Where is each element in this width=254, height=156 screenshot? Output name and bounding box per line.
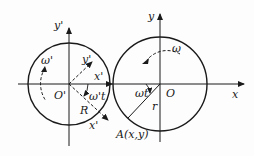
right-frame: y ω ωt O x r A(x,y) bbox=[112, 10, 244, 142]
rotation-arrowhead-icon bbox=[142, 58, 149, 64]
label-y-prime: y' bbox=[53, 19, 63, 32]
angle-arc-icon bbox=[84, 84, 88, 96]
two-circle-rotation-diagram: y' ω' y' x' O' ω't R x' y ω ωt O x r A(x… bbox=[0, 0, 254, 156]
label-x: x bbox=[232, 88, 239, 101]
label-origin-prime: O' bbox=[54, 89, 66, 102]
label-origin: O bbox=[166, 87, 175, 100]
label-r: r bbox=[152, 100, 158, 113]
label-omega-prime-t: ω't bbox=[89, 90, 106, 103]
label-rotating-y: y' bbox=[81, 53, 91, 66]
diagram-svg: y' ω' y' x' O' ω't R x' y ω ωt O x r A(x… bbox=[0, 0, 254, 156]
label-omega-t: ωt bbox=[135, 87, 149, 100]
label-omega-prime: ω' bbox=[41, 54, 53, 67]
label-R: R bbox=[79, 104, 88, 117]
label-rotated-x: x' bbox=[89, 119, 98, 132]
left-frame: y' ω' y' x' O' ω't R x' bbox=[18, 19, 112, 146]
label-x-prime: x' bbox=[94, 70, 103, 83]
label-y: y bbox=[147, 10, 155, 23]
label-point-A: A(x,y) bbox=[115, 128, 148, 141]
label-omega: ω bbox=[172, 42, 181, 55]
